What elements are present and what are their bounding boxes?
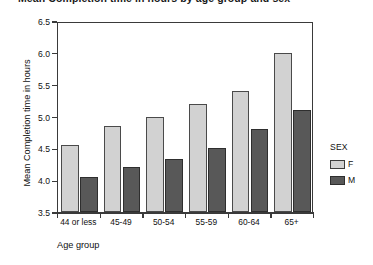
legend-swatch-f [330,160,345,169]
bar-f-5 [274,53,292,212]
legend-entries: FM [330,159,373,185]
plot-area [57,22,313,213]
x-axis-tick-label: 60-64 [238,217,259,227]
chart-title: Mean Completion time in hours by age gro… [18,0,358,4]
x-axis-tick-label: 44 or less [60,217,96,227]
bar-m-4 [251,129,269,212]
legend-title: SEX [330,142,373,152]
bar-m-5 [293,110,311,212]
legend-swatch-m [330,176,345,185]
legend-label: F [348,159,353,169]
y-axis-title: Mean Completion time in hours [22,38,32,208]
legend: SEX FM [330,142,373,191]
bar-f-0 [61,145,79,212]
bar-m-3 [208,148,226,212]
bar-m-0 [80,177,98,212]
y-axis-tick-label: 6.5 [24,17,50,27]
x-axis-tick-mark [185,213,186,218]
x-axis-tick-mark [142,213,143,218]
x-axis-tick-label: 50-54 [153,217,174,227]
bar-f-3 [189,104,207,212]
bar-f-2 [146,117,164,213]
x-axis-tick-mark [270,213,271,218]
x-axis-tick-mark [228,213,229,218]
x-axis-tick-label: 55-59 [196,217,217,227]
x-axis-tick-mark [100,213,101,218]
x-axis-tick-mark [313,213,314,218]
bar-f-4 [232,91,250,212]
legend-item-f[interactable]: F [330,159,373,169]
x-axis-tick-mark [57,213,58,218]
legend-item-m[interactable]: M [330,175,373,185]
legend-label: M [348,175,355,185]
bar-m-2 [165,159,183,212]
x-axis-tick-label: 45-49 [110,217,131,227]
bar-f-1 [104,126,122,212]
bar-chart: Mean Completion time in hours by age gro… [0,0,373,265]
x-axis-tick-label: 65+ [285,217,299,227]
x-axis-title: Age group [57,240,99,250]
bar-m-1 [123,167,141,212]
y-axis-tick-label: 3.5 [24,208,50,218]
